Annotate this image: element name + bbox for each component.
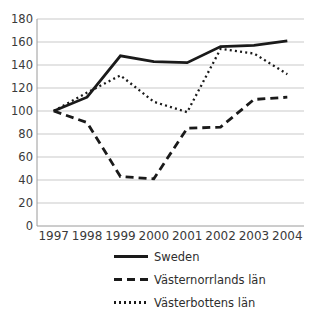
- y-tick-label: 60: [18, 150, 33, 164]
- x-tick-label: 2000: [139, 229, 170, 243]
- x-tick-label: 1997: [38, 229, 69, 243]
- legend-label-sweden: Sweden: [154, 250, 199, 264]
- legend-item-sweden: Sweden: [114, 245, 266, 268]
- y-tick-label: 100: [11, 104, 33, 118]
- legend-label-vasternorrlands-lan: Västernorrlands län: [154, 273, 266, 287]
- y-tick-label: 0: [26, 219, 33, 233]
- series-lines: [54, 41, 288, 179]
- x-axis-labels: 19971998199920002001200220032004: [38, 229, 302, 243]
- legend-item-vasterbottens-lan: Västerbottens län: [114, 291, 266, 314]
- legend-item-vasternorrlands-lan: Västernorrlands län: [114, 268, 266, 291]
- legend-label-vasterbottens-lan: Västerbottens län: [154, 296, 255, 310]
- x-tick-label: 1998: [72, 229, 103, 243]
- y-tick-label: 120: [11, 81, 33, 95]
- legend-swatch-solid-line-icon: [114, 255, 148, 258]
- series-line-dashed: [54, 97, 288, 179]
- x-tick-label: 2001: [172, 229, 203, 243]
- y-tick-label: 140: [11, 58, 33, 72]
- y-tick-label: 180: [11, 12, 33, 26]
- x-tick-label: 2003: [239, 229, 270, 243]
- line-chart-figure: 0204060801001201401601801997199819992000…: [0, 0, 313, 315]
- plot-area: 0204060801001201401601801997199819992000…: [0, 0, 313, 244]
- y-tick-label: 80: [18, 127, 33, 141]
- chart-legend: Sweden Västernorrlands län Västerbottens…: [114, 245, 266, 314]
- legend-swatch-dashed-line-icon: [114, 278, 148, 281]
- y-tick-label: 40: [18, 173, 33, 187]
- gridlines: [37, 19, 304, 226]
- x-tick-label: 2002: [205, 229, 236, 243]
- y-tick-label: 160: [11, 35, 33, 49]
- y-axis-labels: 020406080100120140160180: [11, 12, 33, 233]
- y-tick-label: 20: [18, 196, 33, 210]
- x-tick-label: 1999: [105, 229, 136, 243]
- legend-swatch-dotted-line-icon: [114, 301, 148, 304]
- x-tick-label: 2004: [272, 229, 303, 243]
